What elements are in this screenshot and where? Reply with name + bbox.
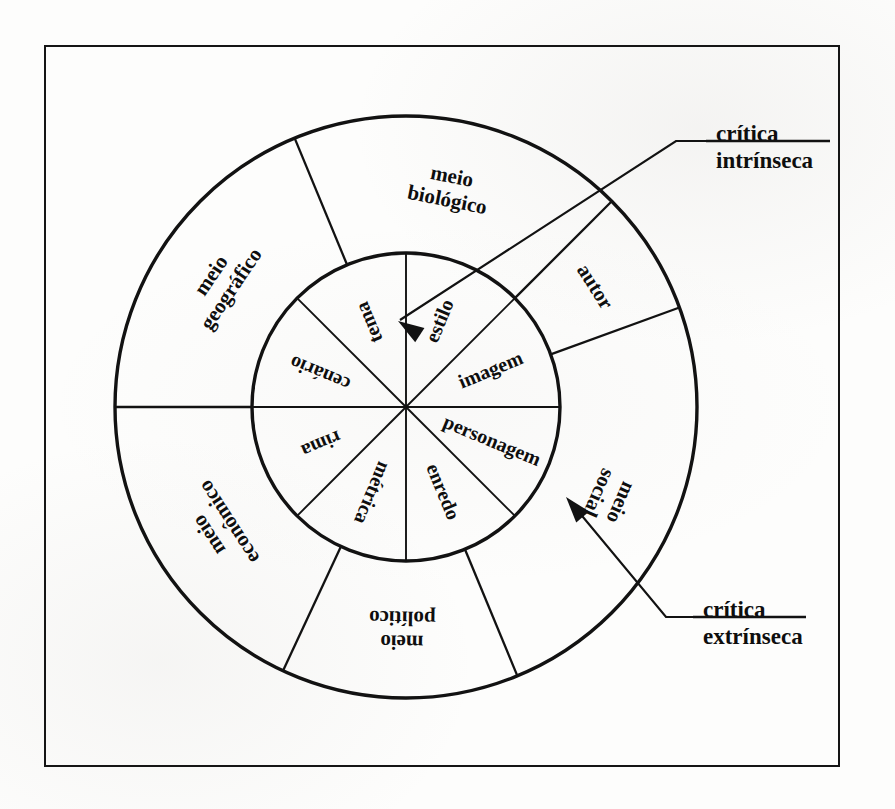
scanned-page: temaestiloimagempersonagemenredométricar… xyxy=(0,0,895,809)
outer-divider xyxy=(551,307,680,354)
outer-divider xyxy=(465,549,517,676)
inner-sector-label: cenário xyxy=(286,352,353,397)
inner-sector-label: enredo xyxy=(422,460,465,522)
inner-sector-dividers xyxy=(252,253,560,561)
wheel-diagram: temaestiloimagempersonagemenredométricar… xyxy=(0,0,895,809)
outer-divider xyxy=(283,547,341,671)
diagram-svg: temaestiloimagempersonagemenredométricar… xyxy=(0,0,895,809)
outer-sector-label: autor xyxy=(572,259,619,313)
callout-label: críticaintrínseca xyxy=(716,121,814,173)
callout-label: críticaextrínseca xyxy=(703,597,803,649)
outer-divider xyxy=(295,138,347,265)
outer-sector-label: meiobiológico xyxy=(405,156,493,219)
outer-sector-label: meiosocial xyxy=(578,465,642,530)
inner-sector-label: métrica xyxy=(350,459,395,528)
inner-divider xyxy=(406,298,515,407)
outer-sector-label: meiopolítico xyxy=(368,606,435,655)
outer-sector-label: meioeconômico xyxy=(173,476,265,581)
callout-arrowhead xyxy=(398,321,424,342)
inner-sector-label: personagem xyxy=(440,410,545,471)
callout-critica-extrinseca: críticaextrínseca xyxy=(566,497,806,649)
inner-divider xyxy=(297,407,406,516)
outer-sector-label: meiogeográfico xyxy=(175,230,267,334)
inner-sector-label: tema xyxy=(350,299,386,346)
callout-critica-intrinseca: críticaintrínseca xyxy=(398,121,830,342)
inner-sector-label: rima xyxy=(298,427,344,463)
inner-divider xyxy=(297,298,406,407)
inner-sector-label: imagem xyxy=(455,346,527,393)
